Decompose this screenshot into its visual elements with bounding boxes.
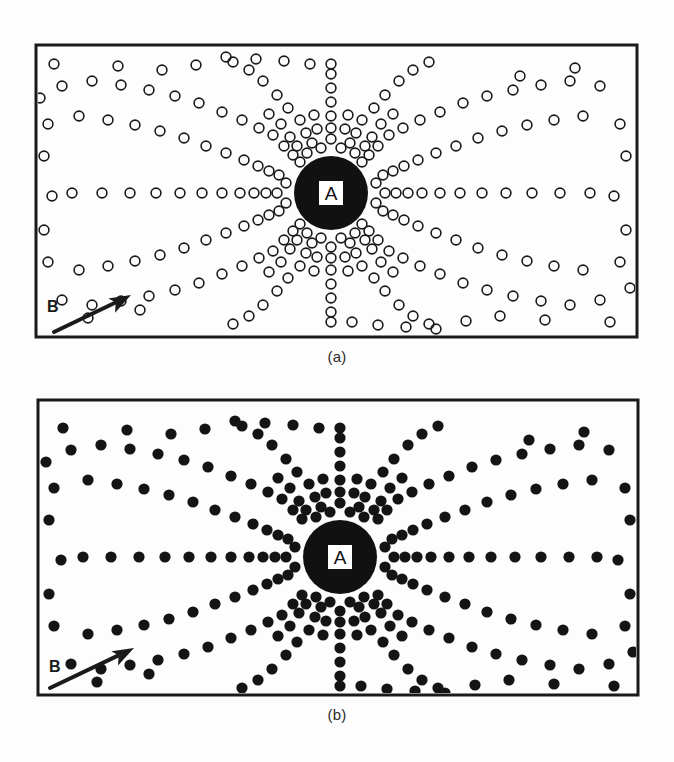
particle (264, 109, 274, 119)
particle (503, 674, 514, 685)
particle (391, 188, 401, 198)
particle (343, 110, 353, 120)
particle (309, 611, 320, 622)
panel-b-diagram: AB (0, 380, 674, 700)
particle (264, 166, 274, 176)
particle (276, 493, 287, 504)
particle (48, 482, 59, 493)
particle (280, 551, 291, 562)
particle (309, 491, 320, 502)
particle (317, 473, 328, 484)
particle (490, 454, 501, 465)
particle (570, 63, 580, 73)
particle (378, 170, 388, 180)
particle (43, 514, 54, 525)
particle (320, 487, 331, 498)
particle (351, 629, 362, 640)
particle (375, 607, 386, 618)
particle (334, 605, 345, 616)
particle (497, 126, 507, 136)
particle (326, 59, 336, 69)
particle (495, 311, 505, 321)
particle (358, 511, 369, 522)
particle (586, 628, 597, 639)
particle (386, 569, 397, 580)
particle (399, 215, 409, 225)
particle (406, 486, 417, 497)
particle (340, 124, 350, 134)
particle (65, 444, 76, 455)
particle (309, 266, 319, 276)
particle (209, 598, 220, 609)
particle (461, 316, 471, 326)
particle (65, 658, 76, 669)
particle (573, 439, 584, 450)
particle (293, 495, 304, 506)
particle (334, 497, 345, 508)
particle (345, 138, 355, 148)
particle (179, 243, 189, 253)
particle (392, 493, 403, 504)
particle (527, 188, 537, 198)
particle (175, 188, 185, 198)
particle (95, 439, 106, 450)
particle (163, 489, 174, 500)
particle (326, 97, 336, 107)
particle (254, 253, 264, 263)
particle (408, 65, 418, 75)
particle (425, 551, 436, 562)
particle (310, 591, 321, 602)
particle (371, 178, 381, 188)
particle (217, 107, 227, 117)
particle (236, 682, 247, 693)
particle (523, 434, 534, 445)
particle (549, 115, 559, 125)
particle (280, 649, 291, 660)
particle (603, 658, 614, 669)
particle (473, 133, 483, 143)
panel-a: AB (0, 0, 674, 348)
particle (312, 124, 322, 134)
particle (272, 286, 282, 296)
particle (266, 439, 277, 450)
particle (282, 533, 293, 544)
particle (307, 238, 317, 248)
particle (284, 482, 295, 493)
particle (398, 123, 408, 133)
particle (380, 90, 390, 100)
particle (351, 248, 361, 258)
particle (435, 188, 445, 198)
particle (615, 119, 625, 129)
particle (334, 670, 345, 681)
particle (595, 295, 605, 305)
particle (563, 551, 574, 562)
particle (272, 630, 283, 641)
particle (103, 261, 113, 271)
particle (221, 228, 231, 238)
particle (334, 432, 345, 443)
particle (432, 420, 443, 431)
particle (268, 246, 278, 256)
particle (348, 487, 359, 498)
particle (357, 115, 367, 125)
particle (334, 446, 345, 457)
particle (326, 123, 336, 133)
particle (199, 423, 210, 434)
particle (272, 188, 282, 198)
particle (388, 649, 399, 660)
particle (252, 674, 263, 685)
particle (276, 119, 286, 129)
particle (103, 115, 113, 125)
particle (326, 111, 336, 121)
particle (87, 300, 97, 310)
particle (205, 551, 216, 562)
particle (407, 578, 418, 589)
particle (451, 235, 461, 245)
particle (485, 551, 496, 562)
particle (39, 151, 49, 161)
particle (411, 551, 422, 562)
particle (459, 504, 470, 515)
particle (221, 148, 231, 158)
particle (274, 170, 284, 180)
particle (138, 619, 149, 630)
